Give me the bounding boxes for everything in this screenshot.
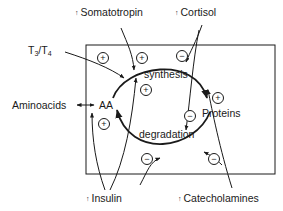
t3-t4-label: T3/T4 (28, 44, 52, 60)
minus-sign-icon: − (176, 50, 188, 62)
synthesis-label: synthesis (144, 68, 188, 80)
plus-sign-icon: + (97, 52, 109, 64)
aminoacids-label: Aminoacids (12, 99, 66, 111)
minus-sign-icon: − (184, 110, 196, 122)
plus-sign-icon: + (140, 84, 152, 96)
cell-box (86, 45, 275, 174)
plus-sign-icon: + (98, 118, 110, 130)
degradation-label: degradation (139, 128, 194, 140)
plus-sign-icon: + (136, 52, 148, 64)
somatotropin-label: ↑Somatotropin (75, 6, 143, 19)
minus-sign-icon: − (141, 153, 153, 165)
catecholamines-label: ↑Catecholamines (178, 192, 259, 205)
aa-label: AA (99, 99, 113, 111)
cortisol-label: ↑Cortisol (175, 6, 216, 19)
insulin-label: ↑Insulin (86, 192, 122, 205)
increase-arrow-icon: ↑ (178, 195, 182, 202)
increase-arrow-icon: ↑ (175, 9, 179, 16)
proteins-label: Proteins (202, 107, 241, 119)
plus-sign-icon: + (212, 92, 224, 104)
protein-metabolism-diagram: ↑Somatotropin ↑Cortisol T3/T4 ↑Insulin ↑… (0, 0, 283, 211)
increase-arrow-icon: ↑ (75, 9, 79, 16)
increase-arrow-icon: ↑ (86, 195, 90, 202)
minus-sign-icon: − (208, 153, 220, 165)
